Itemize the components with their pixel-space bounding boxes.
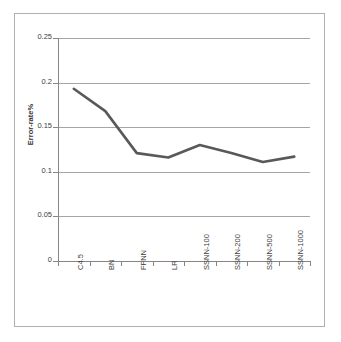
- x-axis-tick: [184, 261, 185, 266]
- y-axis-tick-label: 0.05: [12, 211, 52, 219]
- x-axis-category-label: SSNN-200: [234, 234, 242, 270]
- y-axis-tick-label-wrap: 0.1: [8, 167, 52, 177]
- x-axis-tick: [153, 261, 154, 266]
- y-gridline: [58, 216, 310, 217]
- x-axis-tick: [216, 261, 217, 266]
- y-axis-tick-label: 0.2: [12, 78, 52, 86]
- x-axis-category-label: BN: [108, 260, 116, 270]
- y-axis-line: [58, 38, 59, 262]
- x-axis-tick: [310, 261, 311, 266]
- y-gridline: [58, 38, 310, 39]
- y-axis-tick-label: 0.15: [12, 122, 52, 130]
- chart-frame: [14, 13, 325, 327]
- y-gridline: [58, 172, 310, 173]
- y-gridline: [58, 127, 310, 128]
- y-gridline: [58, 83, 310, 84]
- x-axis-tick: [58, 261, 59, 266]
- x-axis-category-label: C4.5: [77, 254, 85, 270]
- x-axis-tick: [121, 261, 122, 266]
- y-axis-tick-label-wrap: 0: [8, 256, 52, 266]
- y-axis-tick-label: 0.1: [12, 167, 52, 175]
- x-axis-category-label: LR: [171, 260, 179, 270]
- x-axis-category-label: FFNN: [140, 250, 148, 270]
- y-axis-tick-label-wrap: 0.2: [8, 78, 52, 88]
- x-axis-tick: [247, 261, 248, 266]
- x-axis-tick: [279, 261, 280, 266]
- y-axis-tick-label: 0.25: [12, 33, 52, 41]
- x-axis-category-label: SSNN-1000: [297, 230, 305, 270]
- x-axis-category-label: SSNN-500: [266, 234, 274, 270]
- x-axis-tick: [90, 261, 91, 266]
- y-axis-tick-label-wrap: 0.15: [8, 122, 52, 132]
- y-axis-tick-label: 0: [12, 256, 52, 264]
- x-axis-category-label: SSNN-100: [203, 234, 211, 270]
- y-axis-tick-label-wrap: 0.05: [8, 211, 52, 221]
- y-axis-tick-label-wrap: 0.25: [8, 33, 52, 43]
